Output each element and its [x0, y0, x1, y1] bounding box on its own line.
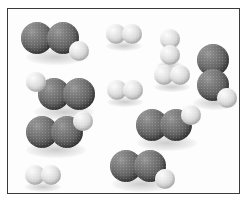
atom-light	[160, 45, 180, 65]
atom-light	[69, 41, 89, 61]
atom-heavy	[63, 78, 95, 110]
molecule-canvas	[0, 0, 250, 206]
molecular-diagram-figure	[0, 0, 250, 206]
atom-light	[155, 169, 175, 189]
atom-light	[170, 65, 190, 85]
atom-light	[217, 88, 237, 108]
atom-light	[123, 80, 143, 100]
atom-light	[181, 105, 201, 125]
atom-light	[122, 24, 142, 44]
atom-light	[73, 111, 93, 131]
atom-light	[26, 72, 46, 92]
atom-light	[41, 165, 61, 185]
